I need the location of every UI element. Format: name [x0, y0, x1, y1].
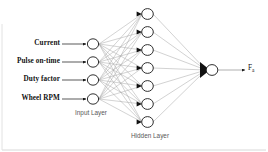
input-label-duty-factor: Duty factor: [24, 76, 60, 83]
output-label-subscript: a: [252, 67, 254, 73]
input-label-pulse-on-time: Pulse on-time: [17, 58, 60, 65]
output-node: [206, 65, 218, 76]
input-label-current: Current: [34, 40, 60, 47]
input-layer-caption: Input Layer: [75, 110, 107, 116]
hidden-input-arrowheads: [137, 12, 142, 125]
input-leader-lines: [62, 44, 86, 99]
hidden-node: [142, 9, 154, 128]
output-label: Fa: [248, 65, 254, 74]
input-hidden-edges: [99, 14, 142, 122]
neural-network-diagram: Current Pulse on-time Duty factor Wheel …: [0, 0, 268, 152]
hidden-layer-caption: Hidden Layer: [131, 133, 169, 139]
input-label-wheel-rpm: Wheel RPM: [21, 95, 60, 102]
hidden-output-edges: [153, 14, 206, 122]
input-node: [87, 39, 98, 104]
